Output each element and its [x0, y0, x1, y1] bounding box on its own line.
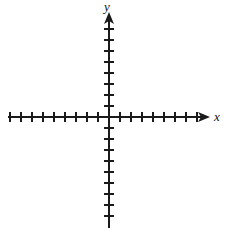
axes-drawing — [0, 0, 230, 233]
coordinate-plane-figure: x y — [0, 0, 230, 233]
y-axis-label: y — [104, 0, 110, 13]
axis-arrowheads — [104, 12, 210, 122]
axis-lines — [8, 16, 206, 228]
x-axis-label: x — [214, 110, 220, 123]
